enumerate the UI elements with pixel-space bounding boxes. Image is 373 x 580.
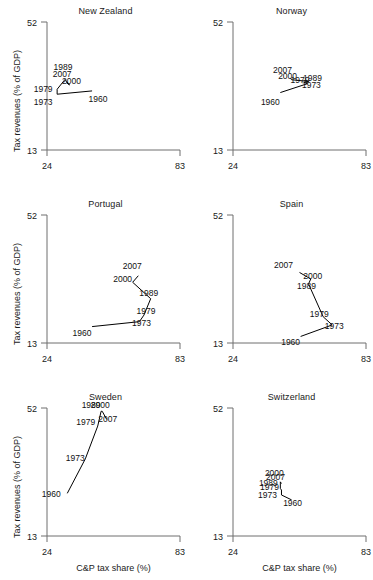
- y-tick-min: 13: [213, 146, 223, 156]
- panel-spain: Spain52132483196019731979198920002007: [186, 193, 372, 386]
- x-tick-max: 83: [361, 161, 371, 171]
- y-tick-max: 52: [27, 404, 37, 414]
- point-label-year: 2007: [274, 260, 293, 270]
- plot-area: 52132483196019731979198920002007: [186, 0, 372, 193]
- point-label-year: 1960: [73, 328, 92, 338]
- y-tick-max: 52: [213, 211, 223, 221]
- point-label-year: 2007: [266, 472, 285, 482]
- x-axis-label: C&P tax share (%): [47, 563, 180, 573]
- point-label-year: 1960: [89, 94, 108, 104]
- panel-switzerland: Switzerland52132483196019731979198920002…: [186, 386, 372, 579]
- point-label-year: 2000: [303, 271, 322, 281]
- plot-area: 52132483196019731979198920002007: [0, 386, 186, 579]
- y-tick-max: 52: [27, 211, 37, 221]
- x-axis-label: C&P tax share (%): [233, 563, 366, 573]
- point-label-year: 1960: [281, 337, 300, 347]
- x-tick-max: 83: [175, 547, 185, 557]
- point-label-year: 1973: [34, 97, 53, 107]
- x-tick-min: 24: [228, 547, 238, 557]
- point-label-year: 1989: [303, 73, 322, 83]
- y-axis-label: Tax revenues (% of GDP): [12, 436, 22, 538]
- plot-area: 52132483196019731979198920002007: [186, 386, 372, 579]
- y-tick-max: 52: [213, 404, 223, 414]
- y-axis: [227, 408, 233, 536]
- y-axis: [41, 408, 47, 536]
- x-tick-max: 83: [175, 354, 185, 364]
- point-label-year: 2000: [113, 274, 132, 284]
- point-label-year: 1960: [283, 498, 302, 508]
- x-axis: [233, 150, 366, 156]
- x-tick-min: 24: [42, 354, 52, 364]
- point-label-year: 2007: [53, 69, 72, 79]
- x-tick-min: 24: [228, 354, 238, 364]
- plot-area: 52132483196019731979198920002007: [186, 193, 372, 386]
- panel-sweden: Sweden52132483196019731979198920002007Ta…: [0, 386, 186, 579]
- point-label-year: 2007: [123, 261, 142, 271]
- x-tick-max: 83: [361, 354, 371, 364]
- point-label-year: 1973: [66, 453, 85, 463]
- point-label-year: 1973: [132, 318, 151, 328]
- panel-norway: Norway52132483196019731979198920002007: [186, 0, 372, 193]
- point-label-year: 2007: [273, 65, 292, 75]
- x-axis: [47, 343, 180, 349]
- point-label-year: 1979: [76, 417, 95, 427]
- y-tick-max: 52: [27, 18, 37, 28]
- point-label-year: 1973: [325, 321, 344, 331]
- y-axis: [227, 215, 233, 343]
- plot-area: 52132483196019731979198920002007: [0, 193, 186, 386]
- x-tick-min: 24: [42, 161, 52, 171]
- y-tick-min: 13: [213, 532, 223, 542]
- x-tick-min: 24: [228, 161, 238, 171]
- point-label-year: 1960: [42, 489, 61, 499]
- point-label-year: 1960: [261, 97, 280, 107]
- panel-portugal: Portugal52132483196019731979198920002007…: [0, 193, 186, 386]
- point-label-year: 1979: [136, 306, 155, 316]
- y-tick-min: 13: [27, 146, 37, 156]
- point-label-year: 1989: [139, 288, 158, 298]
- x-axis: [47, 150, 180, 156]
- panel-new-zealand: New Zealand52132483196019731979198920002…: [0, 0, 186, 193]
- y-axis-label: Tax revenues (% of GDP): [12, 243, 22, 345]
- y-axis-label: Tax revenues (% of GDP): [12, 50, 22, 152]
- x-tick-max: 83: [175, 161, 185, 171]
- y-tick-min: 13: [27, 532, 37, 542]
- point-label-year: 2007: [98, 414, 117, 424]
- y-axis: [227, 22, 233, 150]
- plot-area: 52132483196019731979198920002007: [0, 0, 186, 193]
- y-tick-max: 52: [213, 18, 223, 28]
- point-label-year: 2000: [91, 400, 110, 410]
- x-axis: [47, 536, 180, 542]
- point-label-year: 1979: [310, 309, 329, 319]
- y-tick-min: 13: [27, 339, 37, 349]
- y-axis: [41, 215, 47, 343]
- x-tick-max: 83: [361, 547, 371, 557]
- point-label-year: 1989: [297, 281, 316, 291]
- y-tick-min: 13: [213, 339, 223, 349]
- point-label-year: 1979: [34, 84, 53, 94]
- figure-panel-grid: New Zealand52132483196019731979198920002…: [0, 0, 373, 580]
- x-tick-min: 24: [42, 547, 52, 557]
- x-axis: [233, 536, 366, 542]
